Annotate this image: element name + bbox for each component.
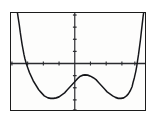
plot-background <box>11 13 145 110</box>
screenshot-root <box>0 0 154 123</box>
calculator-screen-frame <box>10 12 146 111</box>
function-plot <box>11 13 145 110</box>
